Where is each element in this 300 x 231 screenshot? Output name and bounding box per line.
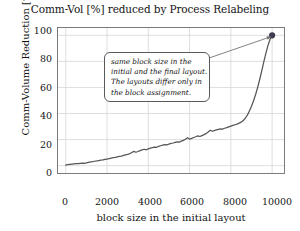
plot-area [0, 0, 300, 231]
chart-figure: Comm-Vol [%] reduced by Process Relabeli… [0, 0, 300, 231]
annotation-line-2: initial and the final layout. [111, 67, 204, 77]
annotation-line-1: same block size in the [111, 57, 204, 67]
annotation-line-3: The layouts differ only in [111, 77, 204, 87]
annotation-line-4: the block assignment. [111, 88, 204, 98]
annotation-callout: same block size in the initial and the f… [104, 52, 210, 102]
